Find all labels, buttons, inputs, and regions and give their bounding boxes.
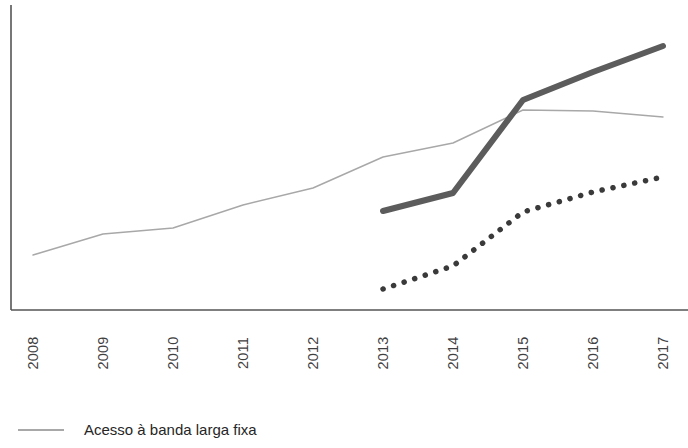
chart-plot-area: [0, 0, 688, 448]
x-axis-tick-2008: 2008: [25, 333, 41, 373]
x-axis-tick-2009: 2009: [95, 333, 111, 373]
series-line-acesso-banda-larga-fixa: [33, 110, 663, 255]
chart-container: 2008200920102011201220132014201520162017…: [0, 0, 688, 448]
x-axis-tick-2010: 2010: [165, 333, 181, 373]
chart-legend: Acesso à banda larga fixa: [0, 418, 688, 448]
x-axis-tick-2014: 2014: [445, 333, 461, 373]
x-axis-tick-2016: 2016: [585, 333, 601, 373]
x-axis-tick-2015: 2015: [515, 333, 531, 373]
legend-item[interactable]: Acesso à banda larga fixa: [18, 418, 257, 440]
x-axis-tick-2012: 2012: [305, 333, 321, 373]
x-axis-tick-2017: 2017: [655, 333, 671, 373]
x-axis-tick-2013: 2013: [375, 333, 391, 373]
series-line-dotted-dark: [383, 177, 663, 289]
series-line-thick-dark: [383, 46, 663, 211]
x-axis-tick-2011: 2011: [235, 333, 251, 373]
legend-item-label: Acesso à banda larga fixa: [84, 421, 257, 438]
legend-swatch-icon: [18, 422, 64, 436]
